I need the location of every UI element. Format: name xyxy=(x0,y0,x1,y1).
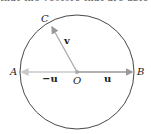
vector-v xyxy=(52,27,77,72)
circle-diagram xyxy=(0,0,151,134)
label-neg-u: −u xyxy=(42,73,58,84)
label-B: B xyxy=(137,66,144,77)
center-point xyxy=(75,70,79,74)
label-v: v xyxy=(64,35,70,46)
label-u: u xyxy=(104,73,111,84)
label-C: C xyxy=(41,13,49,24)
label-O: O xyxy=(73,75,81,86)
label-A: A xyxy=(10,66,17,77)
